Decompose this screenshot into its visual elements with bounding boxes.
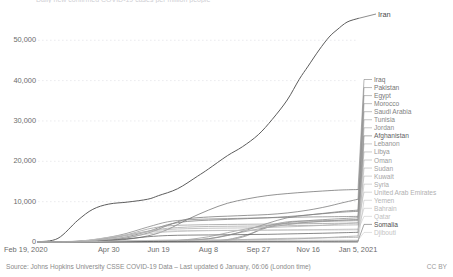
legend-item-qatar[interactable]: Qatar <box>374 213 391 220</box>
x-tick-label: Jan 5, 2021 <box>339 245 378 255</box>
y-tick-label: 50,000 <box>2 36 36 44</box>
legend-item-somalia[interactable]: Somalia <box>374 221 398 228</box>
y-tick-label: 20,000 <box>2 157 36 165</box>
x-tick-label: Feb 19, 2020 <box>4 245 48 255</box>
x-tick-label: Sep 27 <box>247 245 270 255</box>
legend-item-iraq[interactable]: Iraq <box>374 76 385 83</box>
y-tick-label: 10,000 <box>2 198 36 206</box>
y-axis: 50,00040,00030,00020,00010,0000 <box>0 0 36 250</box>
y-tick-label: 40,000 <box>2 77 36 85</box>
highlight-leader-line <box>358 14 376 18</box>
legend-item-united-arab-emirates[interactable]: United Arab Emirates <box>374 189 436 196</box>
legend-leader-line <box>358 232 372 240</box>
chart-footer: Source: Johns Hopkins University CSSE CO… <box>0 262 453 274</box>
legend-item-syria[interactable]: Syria <box>374 181 389 188</box>
legend-item-yemen[interactable]: Yemen <box>374 197 394 204</box>
series-line-iran[interactable] <box>38 18 358 241</box>
chart-container: Daily new confirmed COVID-19 cases per m… <box>0 0 453 277</box>
legend-item-egypt[interactable]: Egypt <box>374 92 391 99</box>
series-line-iraq[interactable] <box>38 190 358 242</box>
legend-item-morocco[interactable]: Morocco <box>374 100 399 107</box>
legend-item-jordan[interactable]: Jordan <box>374 124 394 131</box>
source-note: Source: Johns Hopkins University CSSE CO… <box>6 262 311 271</box>
legend-item-djibouti[interactable]: Djibouti <box>374 229 396 236</box>
legend-item-bahrain[interactable]: Bahrain <box>374 205 397 212</box>
legend-item-tunisia[interactable]: Tunisia <box>374 116 395 123</box>
x-tick-label: Aug 8 <box>199 245 218 255</box>
legend-item-afghanistan[interactable]: Afghanistan <box>374 132 409 139</box>
series-label-iran[interactable]: Iran <box>378 10 391 19</box>
legend-item-oman[interactable]: Oman <box>374 157 392 164</box>
x-tick-label: Apr 30 <box>98 245 120 255</box>
x-axis: Feb 19, 2020Apr 30Jun 19Aug 8Sep 27Nov 1… <box>0 245 453 257</box>
license-note[interactable]: CC BY <box>427 262 447 271</box>
legend-item-saudi-arabia[interactable]: Saudi Arabia <box>374 108 411 115</box>
legend-item-lebanon[interactable]: Lebanon <box>374 140 400 147</box>
legend-item-sudan[interactable]: Sudan <box>374 165 393 172</box>
y-tick-label: 30,000 <box>2 117 36 125</box>
legend-item-kuwait[interactable]: Kuwait <box>374 173 394 180</box>
legend-item-libya[interactable]: Libya <box>374 148 390 155</box>
legend-item-pakistan[interactable]: Pakistan <box>374 84 399 91</box>
x-tick-label: Nov 16 <box>296 245 319 255</box>
x-tick-label: Jun 19 <box>148 245 170 255</box>
